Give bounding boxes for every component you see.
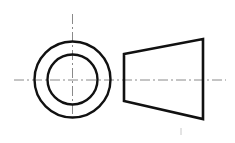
cone-side-view-trapezoid xyxy=(124,39,203,119)
technical-drawing xyxy=(0,0,235,143)
drawing-svg xyxy=(0,0,235,143)
